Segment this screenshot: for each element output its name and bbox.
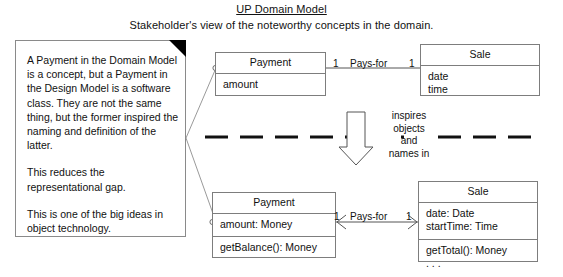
uml-diagram-canvas: UP Domain Model Stakeholder's view of th… [0,0,563,277]
class-operations-sale-design: getTotal(): Money . . . [419,240,537,276]
diagram-title-text: UP Domain Model [236,3,327,15]
multiplicity-right-design: 1 [406,211,412,223]
note-paragraph-3: This is one of the big ideas in object t… [27,207,179,235]
inspires-caption-line: inspires [376,110,442,123]
class-attributes-sale-domain: date time [421,66,539,102]
class-box-sale-domain[interactable]: Sale date time [420,44,540,96]
multiplicity-right-domain: 1 [409,58,415,70]
association-label-domain: Pays-for [350,58,387,70]
note-leader-top [186,68,216,138]
class-name-payment-domain: Payment [216,53,325,74]
attribute-item: startTime: Time [426,220,530,233]
class-attributes-payment-domain: amount [216,74,325,96]
class-name-sale-design: Sale [419,182,537,203]
attribute-item: date [428,70,532,83]
inspires-block-arrow [339,112,373,165]
diagram-title: UP Domain Model [0,3,563,15]
class-box-sale-design[interactable]: Sale date: Date startTime: Time getTotal… [418,181,538,262]
explanation-note: A Payment in the Domain Model is a conce… [15,40,186,237]
attribute-item: amount [223,78,318,91]
operation-item: getBalance(): Money [220,241,328,254]
operation-item: getTotal(): Money [426,244,530,257]
class-name-payment-design: Payment [213,193,335,214]
attribute-item: time [428,83,532,96]
class-operations-payment-design: getBalance(): Money [213,237,335,259]
diagram-subtitle: Stakeholder's view of the noteworthy con… [0,19,563,31]
inspires-caption-line: objects [376,123,442,136]
class-box-payment-design[interactable]: Payment amount: Money getBalance(): Mone… [212,192,336,258]
inspires-caption-line: and [376,135,442,148]
note-text: A Payment in the Domain Model is a conce… [27,53,179,235]
operation-item: . . . [426,257,530,270]
class-name-sale-domain: Sale [421,45,539,66]
inspires-caption-line: names in [376,148,442,161]
class-attributes-payment-design: amount: Money [213,214,335,237]
note-paragraph-1: A Payment in the Domain Model is a conce… [27,53,179,152]
multiplicity-left-design: 1 [334,211,340,223]
class-box-payment-domain[interactable]: Payment amount [215,52,326,96]
attribute-item: date: Date [426,207,530,220]
class-attributes-sale-design: date: Date startTime: Time [419,203,537,240]
inspires-caption: inspires objects and names in [376,110,442,160]
association-label-design: Pays-for [350,211,387,223]
multiplicity-left-domain: 1 [333,58,339,70]
note-paragraph-2: This reduces the representational gap. [27,165,179,193]
attribute-item: amount: Money [220,218,328,231]
